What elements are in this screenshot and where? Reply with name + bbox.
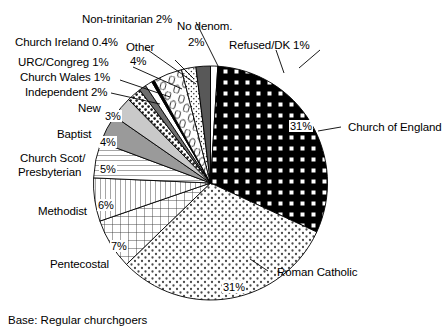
percent-church-of-england: 31% [289,120,313,132]
label-church-of-england: Church of England [348,121,442,134]
label-independent: Independent 2% [25,86,107,99]
percent-baptist: 4% [99,136,117,148]
label-church-scot-line1: Church Scot/ [20,152,85,165]
leader-refused-dk [299,50,320,68]
label-no-denom-line1: No denom. [177,20,232,33]
label-church-wales: Church Wales 1% [20,71,110,84]
label-methodist: Methodist [38,205,87,218]
percent-pentecostal: 7% [110,240,128,252]
label-roman-catholic: Roman Catholic [277,266,357,279]
label-new: New [78,102,101,115]
percent-roman-catholic: 31% [222,281,246,293]
label-church-ireland: Church Ireland 0.4% [15,36,118,49]
label-urc-congreg: URC/Congreg 1% [18,56,109,69]
label-other-line1: Other [126,41,154,54]
label-baptist: Baptist [57,128,91,141]
chart-caption: Base: Regular churchgoers [8,314,147,326]
label-other-line2: 4% [130,55,146,68]
label-refused-dk: Refused/DK 1% [229,39,310,52]
leader-no-denom [276,50,284,73]
label-non-trinitarian: Non-trinitarian 2% [82,13,172,26]
percent-methodist: 6% [97,199,115,211]
leader-church-of-england [318,127,341,131]
label-pentecostal: Pentecostal [50,258,109,271]
label-no-denom-line2: 2% [188,36,204,49]
label-church-scot-line2: Presbyterian [18,166,81,179]
percent-church-scot: 5% [99,163,117,175]
percent-new: 3% [104,110,122,122]
